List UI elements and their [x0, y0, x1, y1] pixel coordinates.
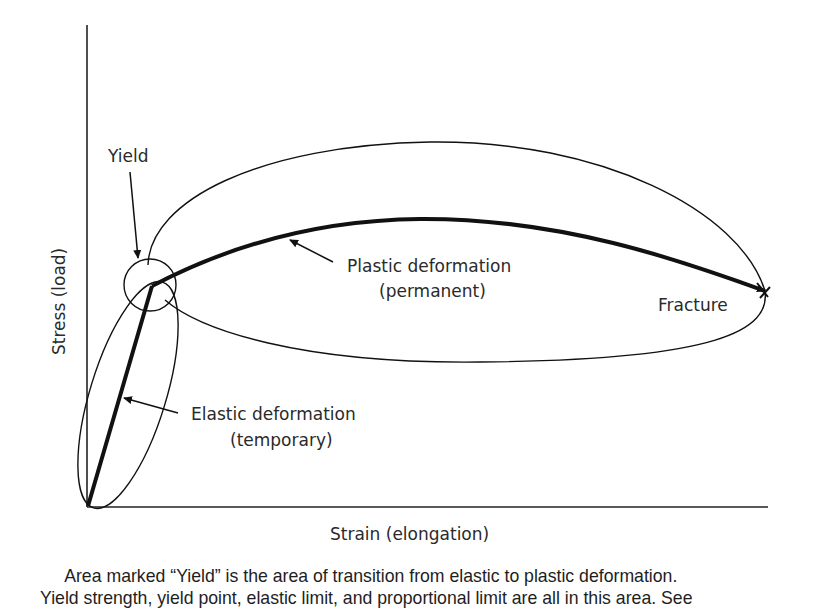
fracture-label: Fracture: [658, 295, 728, 315]
x-axis-label: Strain (elongation): [330, 524, 489, 544]
y-axis-label: Stress (load): [49, 248, 69, 355]
figure-caption: Area marked “Yield” is the area of trans…: [40, 565, 728, 609]
caption-line-1: Area marked “Yield” is the area of trans…: [40, 565, 728, 587]
caption-line-2: Yield strength, yield point, elastic lim…: [40, 587, 728, 609]
elastic-leader-arrow: [124, 398, 178, 413]
yield-leader-arrow: [130, 172, 138, 258]
yield-label: Yield: [107, 146, 148, 166]
plastic-label-line2: (permanent): [379, 281, 486, 301]
elastic-label-line2: (temporary): [230, 430, 333, 450]
plastic-leader-arrow: [290, 240, 333, 262]
plastic-region-outline: [148, 142, 765, 362]
elastic-region-outline: [57, 271, 199, 519]
plastic-label-line1: Plastic deformation: [347, 256, 511, 276]
elastic-label-line1: Elastic deformation: [191, 404, 356, 424]
